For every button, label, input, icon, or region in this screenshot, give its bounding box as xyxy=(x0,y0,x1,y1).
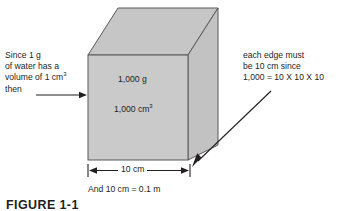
note-left-line-2: of water has a xyxy=(5,61,67,72)
note-right-line-2: be 10 cm since xyxy=(243,61,324,72)
figure-caption: FIGURE 1-1 xyxy=(6,200,79,211)
cube-mass-label: 1,000 g xyxy=(118,74,147,85)
note-left-line-1: Since 1 g xyxy=(5,50,67,61)
figure-container: Since 1 g of water has a volume of 1 cm3… xyxy=(0,0,338,211)
conversion-note: And 10 cm = 0.1 m xyxy=(88,184,160,195)
note-left-line-3: volume of 1 cm3 xyxy=(5,72,67,83)
note-left-line-3-superscript: 3 xyxy=(63,72,66,78)
note-right-line-3: 1,000 = 10 X 10 X 10 xyxy=(243,72,324,83)
note-left-line-4: then xyxy=(5,84,67,95)
cube-diagram-svg xyxy=(0,0,338,211)
note-left-line-3-text: volume of 1 cm xyxy=(5,72,63,82)
note-left: Since 1 g of water has a volume of 1 cm3… xyxy=(5,50,67,95)
cube-volume-label: 1,000 cm3 xyxy=(114,104,153,115)
width-dimension-label: 10 cm xyxy=(118,164,147,175)
note-right-line-1: each edge must xyxy=(243,50,324,61)
cube-volume-label-superscript: 3 xyxy=(149,103,152,109)
note-right: each edge must be 10 cm since 1,000 = 10… xyxy=(243,50,324,84)
cube-volume-label-text: 1,000 cm xyxy=(114,104,149,114)
